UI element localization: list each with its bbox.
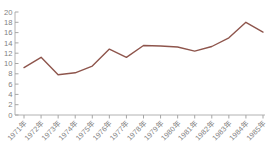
y-tick-label: 6 xyxy=(8,80,12,89)
data-line xyxy=(24,22,263,75)
y-tick-label: 8 xyxy=(8,69,12,78)
line-chart: 024681012141618201971年1972年1973年1974年197… xyxy=(0,0,267,152)
y-tick-label: 0 xyxy=(8,111,12,120)
line-chart-canvas: 024681012141618201971年1972年1973年1974年197… xyxy=(0,0,267,152)
y-tick-label: 16 xyxy=(4,28,12,37)
y-tick-label: 18 xyxy=(4,18,12,27)
y-tick-label: 2 xyxy=(8,100,12,109)
y-tick-label: 10 xyxy=(4,59,12,68)
x-tick-label: 1985年 xyxy=(244,119,267,143)
y-tick-label: 14 xyxy=(4,39,12,48)
y-tick-label: 20 xyxy=(4,8,12,17)
y-tick-label: 12 xyxy=(4,49,12,58)
y-tick-label: 4 xyxy=(8,90,12,99)
